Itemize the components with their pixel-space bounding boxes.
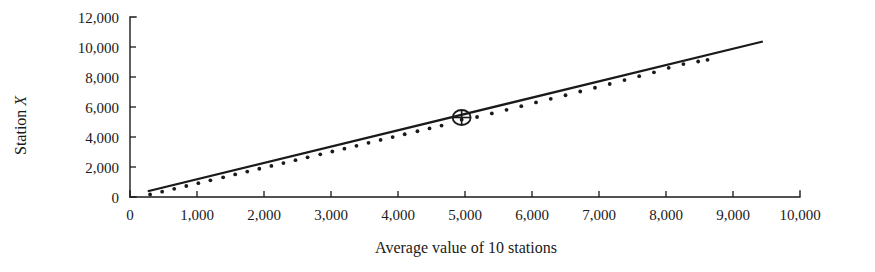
data-point [257,167,261,171]
x-axis-title: Average value of 10 stations [375,239,557,257]
x-axis-tick-marks [197,191,733,197]
data-point [534,101,538,105]
data-point [578,90,582,94]
data-point [593,86,597,90]
data-point [209,178,213,182]
data-point [245,170,249,174]
y-axis-tick-marks [130,47,136,167]
x-axis-tick-labels: 01,0002,0003,0004,0005,0006,0007,0008,00… [126,207,820,223]
y-axis-title-text: Station [12,106,29,155]
data-point [306,155,310,159]
data-point [343,147,347,151]
x-tick-label: 7,000 [582,207,616,223]
data-point [696,60,700,64]
data-point [608,82,612,86]
x-tick-label: 10,000 [779,207,820,223]
y-axis-title-variable: X [12,95,29,107]
data-point [667,66,671,70]
data-point [160,190,164,194]
data-point [148,193,152,197]
x-tick-label: 0 [126,207,134,223]
data-point [416,129,420,133]
y-tick-label: 0 [112,190,120,206]
data-point [355,144,359,148]
data-point [428,126,432,130]
highlighted-point-marker [453,110,471,125]
data-point [519,104,523,108]
y-tick-label: 4,000 [85,130,119,146]
y-tick-label: 12,000 [78,10,119,26]
data-point [330,150,334,154]
data-point [564,93,568,97]
x-tick-label: 1,000 [180,207,214,223]
data-point [475,115,479,119]
data-point [294,158,298,162]
data-point [391,135,395,139]
data-point-group [148,58,709,196]
data-point [282,161,286,165]
x-tick-label: 6,000 [515,207,549,223]
data-point [172,187,176,191]
data-point [184,184,188,188]
y-tick-label: 10,000 [78,40,119,56]
x-tick-label: 5,000 [448,207,482,223]
data-point [652,70,656,74]
x-tick-label: 3,000 [314,207,348,223]
data-point [682,62,686,66]
y-axis-tick-labels: 02,0004,0006,0008,00010,00012,000 [78,10,119,206]
data-point [706,58,710,62]
data-point [403,132,407,136]
chart-canvas: 02,0004,0006,0008,00010,00012,000 01,000… [0,0,875,272]
data-point [623,78,627,82]
data-point [233,173,237,177]
data-point [549,97,553,101]
scatter-chart-figure: 02,0004,0006,0008,00010,00012,000 01,000… [0,0,875,272]
data-point [379,138,383,142]
fitted-trend-line [149,42,762,191]
data-point [490,112,494,116]
data-point [505,108,509,112]
y-axis-title: Station X [12,95,29,155]
data-point [221,175,225,179]
data-point [318,152,322,156]
y-tick-label: 8,000 [85,70,119,86]
y-tick-label: 6,000 [85,100,119,116]
x-tick-label: 8,000 [649,207,683,223]
data-point [637,74,641,78]
y-tick-label: 2,000 [85,160,119,176]
x-tick-label: 2,000 [247,207,281,223]
data-point [196,181,200,185]
data-point [367,141,371,145]
data-point [440,124,444,128]
x-tick-label: 4,000 [381,207,415,223]
x-tick-label: 9,000 [716,207,750,223]
data-point [269,164,273,168]
